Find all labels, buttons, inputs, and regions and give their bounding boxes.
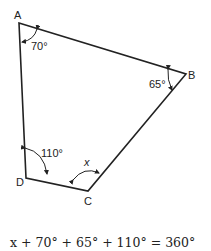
angle-arc-c (73, 171, 99, 180)
vertex-label-d: D (16, 176, 24, 188)
angle-label-b: 65° (149, 78, 166, 90)
angle-sum-equation: x + 70° + 65° + 110° = 360° (10, 235, 195, 250)
vertex-label-a: A (14, 9, 22, 21)
angle-label-c: x (83, 156, 90, 168)
angle-label-a: 70° (31, 40, 48, 52)
angle-label-d: 110° (41, 147, 63, 159)
vertex-label-c: C (84, 195, 92, 207)
vertex-label-b: B (188, 69, 195, 81)
angle-arc-b (168, 69, 172, 90)
quadrilateral-diagram: A B C D 70° 65° 110° x x + 70° + 65° + 1… (0, 0, 211, 251)
